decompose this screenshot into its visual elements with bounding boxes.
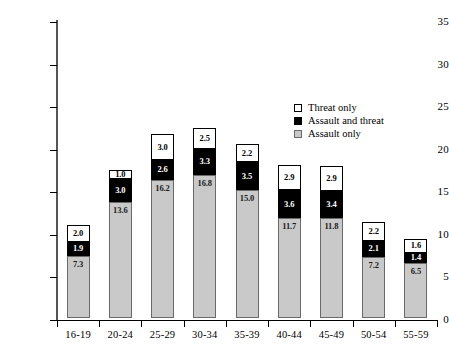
segment-value-label: 2.6 [157, 165, 167, 174]
x-tick [99, 320, 100, 327]
segment-threat-only: 2.5 [193, 128, 216, 149]
segment-assault-only: 16.2 [151, 180, 174, 318]
bar-20-24[interactable]: 1.03.013.6 [109, 170, 132, 320]
legend-label: Assault and threat [308, 115, 384, 126]
segment-value-label: 16.8 [198, 179, 212, 188]
x-tick [310, 320, 311, 327]
segment-assault-and-threat: 2.1 [362, 240, 385, 258]
segment-assault-only: 15.0 [236, 190, 259, 318]
segment-threat-only: 2.9 [320, 166, 343, 191]
segment-value-label: 1.9 [73, 244, 83, 253]
bar-50-54[interactable]: 2.22.17.2 [362, 222, 385, 320]
legend-swatch-black-icon [294, 117, 302, 125]
bar-55-59[interactable]: 1.61.46.5 [404, 239, 427, 320]
segment-value-label: 3.4 [326, 200, 336, 209]
segment-assault-only: 7.2 [362, 257, 385, 318]
segment-assault-and-threat: 3.6 [278, 189, 301, 220]
segment-assault-only: 11.8 [320, 218, 343, 318]
bar-16-19[interactable]: 2.01.97.3 [67, 225, 90, 320]
segment-value-label: 2.2 [242, 149, 252, 158]
legend-item-assault-and-threat: Assault and threat [294, 114, 384, 127]
segment-value-label: 16.2 [155, 184, 169, 193]
x-tick [353, 320, 354, 327]
segment-value-label: 2.1 [368, 244, 378, 253]
segment-assault-only: 13.6 [109, 202, 132, 318]
segment-assault-and-threat: 3.4 [320, 190, 343, 219]
segment-value-label: 2.2 [368, 227, 378, 236]
y-tick [50, 235, 57, 236]
x-axis-line [56, 320, 437, 321]
y-tick [50, 22, 57, 23]
legend-label: Threat only [308, 102, 357, 113]
legend-item-assault-only: Assault only [294, 127, 384, 140]
segment-assault-only: 6.5 [404, 263, 427, 318]
segment-threat-only: 3.0 [151, 134, 174, 160]
segment-value-label: 2.0 [73, 229, 83, 238]
x-tick [268, 320, 269, 327]
segment-value-label: 1.4 [411, 253, 421, 262]
segment-value-label: 3.0 [115, 186, 125, 195]
segment-value-label: 11.7 [282, 222, 296, 231]
bar-40-44[interactable]: 2.93.611.7 [278, 165, 301, 320]
segment-value-label: 3.5 [242, 172, 252, 181]
segment-value-label: 2.9 [326, 174, 336, 183]
segment-assault-only: 16.8 [193, 175, 216, 318]
segment-threat-only: 2.2 [362, 222, 385, 241]
segment-assault-only: 11.7 [278, 218, 301, 318]
segment-assault-and-threat: 3.0 [109, 178, 132, 204]
x-tick [184, 320, 185, 327]
y-tick [50, 192, 57, 193]
segment-value-label: 3.0 [157, 143, 167, 152]
bar-30-34[interactable]: 2.53.316.8 [193, 128, 216, 320]
x-tick [226, 320, 227, 327]
bar-25-29[interactable]: 3.02.616.2 [151, 134, 174, 320]
y-tick [50, 150, 57, 151]
segment-assault-and-threat: 1.9 [67, 241, 90, 257]
y-tick [50, 320, 57, 321]
legend-label: Assault only [308, 128, 361, 139]
x-tick [437, 320, 438, 327]
segment-assault-and-threat: 3.5 [236, 161, 259, 191]
segment-threat-only: 2.9 [278, 165, 301, 190]
chart-legend: Threat only Assault and threat Assault o… [294, 101, 384, 140]
segment-value-label: 1.6 [411, 241, 421, 250]
y-tick [50, 65, 57, 66]
segment-assault-and-threat: 2.6 [151, 159, 174, 181]
legend-swatch-gray-icon [294, 130, 302, 138]
segment-threat-only: 2.0 [67, 225, 90, 242]
segment-value-label: 7.2 [368, 261, 378, 270]
y-tick [50, 277, 57, 278]
bar-35-39[interactable]: 2.23.515.0 [236, 144, 259, 320]
x-tick [141, 320, 142, 327]
segment-value-label: 3.6 [284, 200, 294, 209]
segment-assault-only: 7.3 [67, 256, 90, 318]
plot-area: 2.01.97.31.03.013.63.02.616.22.53.316.82… [57, 22, 437, 320]
segment-value-label: 2.9 [284, 173, 294, 182]
legend-item-threat-only: Threat only [294, 101, 384, 114]
segment-value-label: 15.0 [240, 194, 254, 203]
segment-value-label: 11.8 [324, 222, 338, 231]
x-tick-label-55-59: 55-59 [386, 329, 446, 341]
segment-threat-only: 2.2 [236, 144, 259, 163]
x-tick [395, 320, 396, 327]
stacked-bar-chart: % of men 35302520151050 2.01.97.31.03.01… [0, 0, 449, 363]
segment-value-label: 3.3 [200, 157, 210, 166]
legend-swatch-white-icon [294, 104, 302, 112]
x-tick [57, 320, 58, 327]
bar-45-49[interactable]: 2.93.411.8 [320, 166, 343, 320]
segment-threat-only: 1.6 [404, 239, 427, 253]
segment-value-label: 13.6 [113, 206, 127, 215]
y-tick [50, 107, 57, 108]
segment-value-label: 6.5 [411, 267, 421, 276]
segment-assault-and-threat: 3.3 [193, 148, 216, 176]
segment-value-label: 2.5 [200, 134, 210, 143]
segment-value-label: 7.3 [73, 260, 83, 269]
